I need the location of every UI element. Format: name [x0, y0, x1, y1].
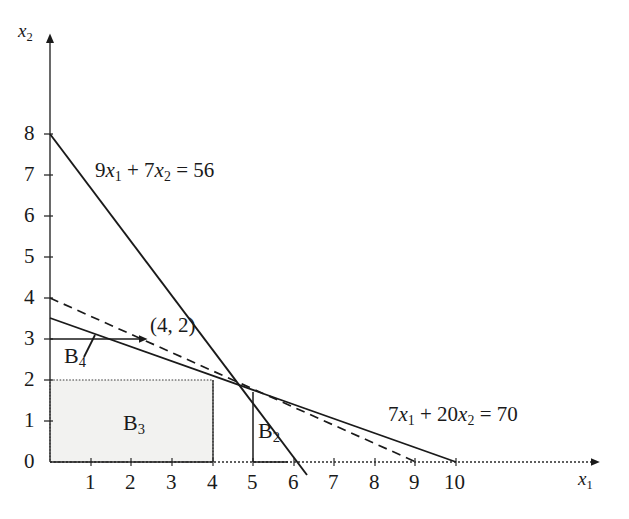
y-axis-label: x2 [18, 20, 33, 45]
figure-svg [0, 0, 629, 519]
y-axis-ticks [44, 134, 53, 421]
figure-canvas: x2 x1 8 7 6 5 4 3 2 1 0 1 2 3 4 5 6 7 8 … [0, 0, 629, 519]
y-tick-5: 5 [24, 244, 35, 269]
x-tick-8: 8 [369, 470, 380, 495]
y-tick-7: 7 [24, 162, 35, 187]
x-tick-3: 3 [166, 470, 177, 495]
x-tick-10: 10 [444, 470, 465, 495]
equation-label-line2: 7x1 + 20x2 = 70 [388, 402, 518, 429]
region-label-b3: B3 [123, 410, 145, 438]
y-tick-3: 3 [24, 326, 35, 351]
y-tick-4: 4 [24, 285, 35, 310]
x-tick-6: 6 [288, 470, 299, 495]
y-tick-0: 0 [24, 449, 35, 474]
y-tick-1: 1 [24, 408, 35, 433]
y-tick-2: 2 [24, 367, 35, 392]
vertex-label-4-2: (4, 2) [150, 313, 196, 338]
x-tick-1: 1 [85, 470, 96, 495]
y-tick-6: 6 [24, 203, 35, 228]
y-tick-8: 8 [24, 121, 35, 146]
region-label-b4: B4 [64, 343, 86, 371]
x-tick-4: 4 [207, 470, 218, 495]
x-axis-label: x1 [578, 468, 593, 493]
region-label-b2: B2 [258, 418, 280, 446]
x-tick-2: 2 [125, 470, 136, 495]
x-tick-9: 9 [409, 470, 420, 495]
x-tick-7: 7 [328, 470, 339, 495]
x-tick-5: 5 [247, 470, 258, 495]
equation-label-line1: 9x1 + 7x2 = 56 [95, 158, 214, 185]
